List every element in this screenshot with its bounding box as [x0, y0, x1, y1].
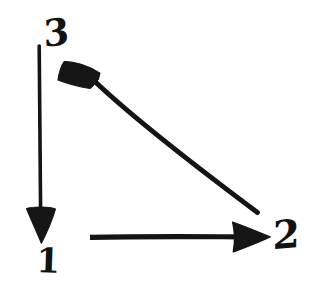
arrow-3-to-1-shaft — [39, 46, 40, 210]
node-label-1: 1 — [36, 243, 60, 278]
arrow-3-to-1 — [27, 46, 56, 243]
arrow-2-to-3 — [58, 62, 258, 213]
arrow-1-to-2-shaft — [90, 237, 238, 238]
arrow-1-to-2 — [90, 222, 270, 252]
node-label-3: 3 — [43, 13, 70, 53]
arrow-3-to-1-head — [27, 207, 56, 243]
arrow-1-to-2-head — [233, 222, 271, 252]
arrow-2-to-3-shaft — [97, 83, 258, 213]
figure-canvas: 3 2 1 — [0, 0, 315, 282]
node-label-2: 2 — [272, 214, 300, 256]
